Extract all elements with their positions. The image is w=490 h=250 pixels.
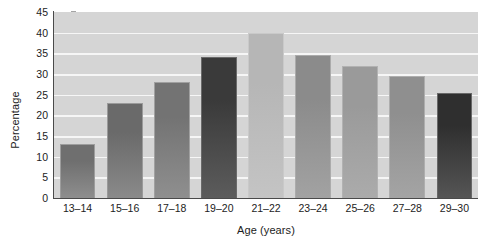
bar bbox=[295, 55, 331, 198]
x-axis-tick-label: 23–24 bbox=[299, 202, 328, 214]
plot-area bbox=[54, 12, 478, 198]
y-axis-tick-label: 20 bbox=[36, 109, 48, 121]
y-axis-tick-label: 40 bbox=[36, 27, 48, 39]
x-axis-tick-label: 13–14 bbox=[63, 202, 92, 214]
x-axis-title: Age (years) bbox=[54, 224, 478, 236]
bar bbox=[389, 76, 425, 198]
bar bbox=[154, 82, 190, 198]
bar bbox=[342, 66, 378, 198]
y-axis-tick-label: 15 bbox=[36, 130, 48, 142]
x-axis-tick-label: 21–22 bbox=[251, 202, 280, 214]
bar bbox=[437, 93, 473, 198]
x-axis-tick-label: 27–28 bbox=[393, 202, 422, 214]
bar bbox=[201, 57, 237, 198]
x-axis-tick-label: 15–16 bbox=[110, 202, 139, 214]
x-axis-tick-label: 29–30 bbox=[440, 202, 469, 214]
y-axis-tick-label: 5 bbox=[42, 171, 48, 183]
y-axis-tick-label: 45 bbox=[36, 6, 48, 18]
x-axis-tick-label: 25–26 bbox=[346, 202, 375, 214]
bar bbox=[248, 33, 284, 198]
y-axis-tick-label: 25 bbox=[36, 89, 48, 101]
x-axis-tick-labels: 13–1415–1617–1819–2021–2223–2425–2627–28… bbox=[54, 202, 478, 218]
bar bbox=[60, 144, 96, 198]
y-axis-tick-labels: 051015202530354045 bbox=[22, 12, 48, 198]
y-axis-tick-label: 10 bbox=[36, 151, 48, 163]
y-axis-tick-label: 35 bbox=[36, 47, 48, 59]
y-axis-tick-label: 30 bbox=[36, 68, 48, 80]
y-axis-tick-label: 0 bbox=[42, 192, 48, 204]
x-axis-tick-label: 19–20 bbox=[204, 202, 233, 214]
x-axis-tick-label: 17–18 bbox=[157, 202, 186, 214]
bar bbox=[107, 103, 143, 198]
x-axis-line bbox=[53, 198, 478, 199]
bar-chart-figure: Percentage 051015202530354045 13–1415–16… bbox=[0, 0, 490, 250]
